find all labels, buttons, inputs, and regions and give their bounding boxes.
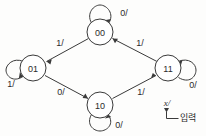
self-loop-01-label: 1/	[7, 79, 15, 89]
self-loop-00-label: 0/	[120, 8, 128, 18]
transition-01-to-10	[45, 76, 88, 99]
transition-00-to-01-line	[47, 39, 89, 62]
transition-00-to-01	[47, 39, 89, 65]
transition-10-to-11-label: 1/	[137, 87, 145, 97]
transition-01-to-10-label: 0/	[57, 87, 65, 97]
legend-variable-label: x/	[163, 98, 172, 108]
legend-leader-line	[167, 112, 179, 119]
state-node-11-label: 11	[163, 64, 172, 74]
legend-description-label: 입력	[180, 112, 196, 123]
state-node-10-label: 10	[95, 101, 105, 111]
self-loop-10-label: 0/	[115, 120, 123, 130]
self-loop-11-label: 0/	[189, 80, 197, 90]
legend: x/ 입력	[163, 98, 196, 123]
transition-11-to-00	[113, 39, 158, 62]
transition-10-to-11-line	[113, 76, 157, 99]
transition-10-to-11	[113, 73, 157, 98]
transition-11-to-00-line	[113, 39, 158, 62]
transition-11-to-00-label: 1/	[136, 38, 144, 48]
state-node-01[interactable]: 01	[20, 55, 46, 81]
transition-01-to-10-line	[45, 76, 88, 99]
state-node-00-label: 00	[95, 28, 105, 38]
transition-00-to-01-label: 1/	[56, 38, 64, 48]
state-node-10[interactable]: 10	[87, 92, 113, 118]
state-node-11[interactable]: 11	[155, 55, 181, 81]
diagram-canvas: 00 01 11 10 0/ 1/ 0/ 0/ 1/ 0/ 1/ 1/ x/ 입…	[0, 0, 206, 136]
state-node-00[interactable]: 00	[87, 19, 113, 45]
state-node-01-label: 01	[28, 64, 38, 74]
state-machine-diagram: 00 01 11 10 0/ 1/ 0/ 0/ 1/ 0/ 1/ 1/ x/ 입…	[0, 0, 206, 136]
legend-arrowhead-icon	[164, 108, 169, 113]
